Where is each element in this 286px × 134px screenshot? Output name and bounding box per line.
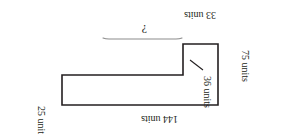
dimension-brace [103, 38, 182, 39]
label-unknown-question-mark: ? [142, 23, 147, 35]
label-top-33-units: 33 units [184, 10, 216, 20]
label-bottom-144-units: 144 units [141, 114, 178, 124]
rotated-figure-group: 144 units 25 units 36 units ? 75 units 3… [0, 0, 286, 134]
label-step-36-units: 36 units [202, 76, 212, 108]
step-polygon-outline [62, 44, 218, 105]
label-right-25-units: 25 units [36, 106, 46, 134]
label-left-75-units: 75 units [240, 50, 250, 82]
diagram-canvas: 144 units 25 units 36 units ? 75 units 3… [0, 0, 286, 134]
